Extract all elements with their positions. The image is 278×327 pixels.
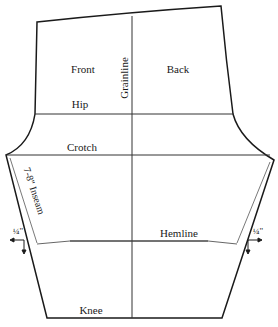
left-allowance-arrow-icon (10, 238, 26, 254)
pattern-outline (6, 6, 274, 318)
right-allowance-label: ¼" (253, 226, 264, 236)
pattern-diagram: Front Back Grainline Hip Crotch 7-8" Ins… (0, 0, 278, 327)
back-label: Back (167, 63, 190, 75)
hip-label: Hip (72, 98, 89, 110)
knee-label: Knee (79, 304, 102, 316)
grainline-label: Grainline (118, 57, 130, 99)
inseam-label: 7-8" Inseam (22, 166, 48, 216)
left-allowance-label: ¼" (13, 226, 24, 236)
crotch-label: Crotch (67, 141, 97, 153)
hemline-label: Hemline (160, 227, 198, 239)
front-label: Front (71, 63, 95, 75)
right-allowance-arrow-icon (246, 238, 262, 254)
